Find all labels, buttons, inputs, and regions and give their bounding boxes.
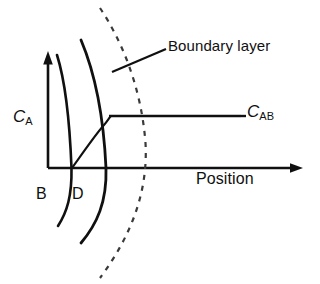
x-axis-label: Position (196, 171, 254, 187)
boundary-layer-arc (100, 8, 146, 278)
x-axis (48, 163, 303, 173)
plateau-label-subscript: AB (259, 110, 274, 122)
y-axis (43, 51, 53, 168)
plateau-label: CAB (247, 103, 274, 120)
curve-b-path (57, 55, 72, 226)
y-axis-label-subscript: A (25, 115, 33, 127)
plateau-label-base: C (247, 102, 259, 121)
y-axis-arrowhead (43, 51, 53, 65)
curve-b-label: B (36, 186, 47, 202)
boundary-layer-concentration-figure: Boundary layer Position CA CAB B D (0, 0, 320, 284)
boundary-layer-leader-line (112, 49, 166, 72)
x-axis-arrowhead (290, 163, 303, 173)
curve-d-path (81, 40, 106, 243)
figure-canvas (0, 0, 320, 284)
boundary-layer-label: Boundary layer (168, 38, 270, 53)
y-axis-label-base: C (13, 107, 25, 126)
y-axis-label: CA (13, 108, 33, 125)
curve-d-label: D (72, 186, 84, 202)
